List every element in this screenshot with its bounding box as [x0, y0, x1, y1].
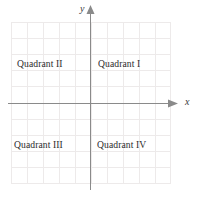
quadrant-label-iii: Quadrant III	[14, 140, 63, 150]
y-axis-arrow-icon	[87, 5, 95, 14]
coordinate-plane-figure: y x Quadrant II Quadrant I Quadrant III …	[0, 0, 199, 197]
x-axis-arrow-icon	[168, 100, 178, 108]
x-axis-label: x	[185, 97, 189, 107]
coordinate-plane-canvas	[0, 0, 199, 197]
quadrant-label-i: Quadrant I	[98, 59, 140, 69]
quadrant-label-ii: Quadrant II	[17, 59, 63, 69]
quadrant-label-iv: Quadrant IV	[97, 140, 146, 150]
y-axis-label: y	[80, 4, 84, 14]
